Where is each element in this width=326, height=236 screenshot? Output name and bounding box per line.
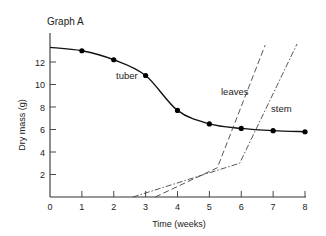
data-point-tuber xyxy=(271,128,276,133)
series-labels: tuberleavesstem xyxy=(116,70,292,114)
y-axis-label: Dry mass (g) xyxy=(17,99,27,151)
data-point-tuber xyxy=(302,129,307,134)
x-tick-label: 4 xyxy=(175,202,180,212)
x-tick-label: 1 xyxy=(79,202,84,212)
ticks: 01234567824681012 xyxy=(35,58,308,213)
x-tick-label: 8 xyxy=(302,202,307,212)
series-label-stem: stem xyxy=(271,103,292,114)
data-point-tuber xyxy=(143,73,148,78)
data-point-tuber xyxy=(207,121,212,126)
x-tick-label: 5 xyxy=(207,202,212,212)
axes xyxy=(50,33,306,197)
series-label-leaves: leaves xyxy=(221,86,249,97)
series-label-tuber: tuber xyxy=(116,70,138,81)
series-group xyxy=(50,44,308,197)
x-axis-label: Time (weeks) xyxy=(152,219,206,229)
data-point-tuber xyxy=(239,126,244,131)
x-tick-label: 3 xyxy=(143,202,148,212)
y-tick-label: 6 xyxy=(40,125,45,135)
chart-title: Graph A xyxy=(47,16,84,27)
chart: Graph A 01234567824681012 tuberleavesste… xyxy=(0,0,326,236)
series-line-tuber xyxy=(50,47,305,131)
data-point-tuber xyxy=(111,57,116,62)
series-line-leaves xyxy=(155,45,265,197)
y-tick-label: 12 xyxy=(35,58,45,68)
data-point-tuber xyxy=(175,108,180,113)
data-point-tuber xyxy=(79,48,84,53)
x-tick-label: 6 xyxy=(239,202,244,212)
y-tick-label: 4 xyxy=(40,148,45,158)
x-tick-label: 7 xyxy=(271,202,276,212)
y-tick-label: 2 xyxy=(40,170,45,180)
y-tick-label: 8 xyxy=(40,103,45,113)
x-tick-label: 0 xyxy=(47,202,52,212)
y-tick-label: 10 xyxy=(35,80,45,90)
series-line-stem xyxy=(133,44,297,197)
x-tick-label: 2 xyxy=(111,202,116,212)
